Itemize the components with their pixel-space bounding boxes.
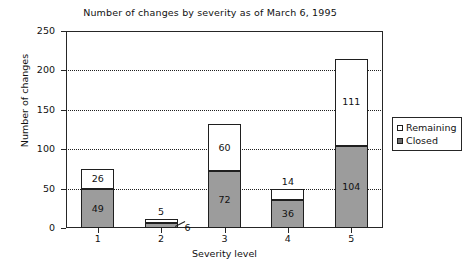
- x-axis-title: Severity level: [66, 248, 383, 259]
- bar-segment-closed-5[interactable]: [335, 146, 368, 228]
- legend-swatch-remaining-icon: [397, 125, 403, 131]
- bar-segment-closed-3[interactable]: [208, 171, 241, 228]
- y-tick-label-250: 250: [9, 25, 55, 36]
- x-tick-label-1: 1: [78, 233, 118, 244]
- bar-segment-remaining-2[interactable]: [145, 219, 178, 223]
- bar-segment-remaining-3[interactable]: [208, 124, 241, 171]
- bar-segment-closed-4[interactable]: [271, 200, 304, 228]
- x-tick-label-2: 2: [141, 233, 181, 244]
- legend-label-closed: Closed: [406, 135, 438, 146]
- y-tick-label-0: 0: [9, 222, 55, 233]
- legend-label-remaining: Remaining: [406, 122, 456, 133]
- y-tick-label-100: 100: [9, 143, 55, 154]
- x-tick-label-5: 5: [331, 233, 371, 244]
- legend-swatch-closed-icon: [397, 138, 403, 144]
- x-tick-label-4: 4: [268, 233, 308, 244]
- y-tick-label-200: 200: [9, 64, 55, 75]
- y-tick-label-150: 150: [9, 104, 55, 115]
- legend: Remaining Closed: [392, 117, 462, 151]
- bar-segment-closed-1[interactable]: [81, 189, 114, 228]
- y-tick-200: [61, 70, 66, 71]
- bar-segment-remaining-5[interactable]: [335, 59, 368, 146]
- y-tick-100: [61, 149, 66, 150]
- bar-segment-closed-2[interactable]: [145, 223, 178, 228]
- legend-item-closed[interactable]: Closed: [397, 134, 456, 147]
- bar-chart: Number of changes by severity as of Marc…: [0, 0, 476, 268]
- y-tick-0: [61, 228, 66, 229]
- bar-segment-remaining-1[interactable]: [81, 169, 114, 189]
- legend-item-remaining[interactable]: Remaining: [397, 121, 456, 134]
- y-tick-50: [61, 189, 66, 190]
- y-tick-label-50: 50: [9, 183, 55, 194]
- bar-segment-remaining-4[interactable]: [271, 189, 304, 200]
- y-tick-250: [61, 31, 66, 32]
- y-tick-150: [61, 110, 66, 111]
- x-tick-label-3: 3: [205, 233, 245, 244]
- chart-title: Number of changes by severity as of Marc…: [0, 7, 420, 18]
